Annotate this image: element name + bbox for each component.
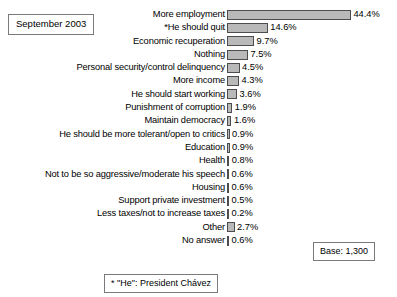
category-label: No answer <box>0 236 227 245</box>
bar <box>227 209 229 219</box>
value-label: 2.7% <box>237 223 258 232</box>
bar <box>227 63 240 73</box>
value-label: 0.6% <box>232 183 253 192</box>
chart-row: Support private investment0.5% <box>0 194 397 207</box>
bar-track: 0.2% <box>227 207 397 220</box>
category-label: Education <box>0 143 227 152</box>
value-label: 1.6% <box>234 116 255 125</box>
category-label: Maintain democracy <box>0 116 227 125</box>
category-label: Punishment of corruption <box>0 103 227 112</box>
value-label: 0.2% <box>232 209 253 218</box>
value-label: 9.7% <box>257 37 278 46</box>
value-label: 44.4% <box>353 10 379 19</box>
bar <box>227 36 254 46</box>
category-label: Support private investment <box>0 196 227 205</box>
bar <box>227 236 229 246</box>
bar-track: 2.7% <box>227 221 397 234</box>
chart-row: Less taxes/not to increase taxes0.2% <box>0 207 397 220</box>
chart-row: He should start working3.6% <box>0 88 397 101</box>
category-label: He should start working <box>0 90 227 99</box>
chart-row: Housing0.6% <box>0 181 397 194</box>
chart-row: Economic recuperation9.7% <box>0 35 397 48</box>
category-label: Less taxes/not to increase taxes <box>0 209 227 218</box>
bar-chart-plot-area: More employment44.4%*He should quit14.6%… <box>0 8 397 247</box>
chart-container: September 2003 More employment44.4%*He s… <box>0 0 397 297</box>
bar-track: 9.7% <box>227 35 397 48</box>
chart-row: Education0.9% <box>0 141 397 154</box>
bar-track: 1.9% <box>227 101 397 114</box>
bar <box>227 103 232 113</box>
category-label: More income <box>0 76 227 85</box>
chart-row: Health0.8% <box>0 154 397 167</box>
chart-row: More employment44.4% <box>0 8 397 21</box>
category-label: Economic recuperation <box>0 37 227 46</box>
chart-row: *He should quit14.6% <box>0 21 397 34</box>
bar <box>227 169 229 179</box>
base-label: Base: 1,300 <box>320 246 368 256</box>
bar-track: 1.6% <box>227 114 397 127</box>
bar <box>227 143 230 153</box>
bar-track: 0.6% <box>227 181 397 194</box>
chart-row: Other2.7% <box>0 221 397 234</box>
category-label: Other <box>0 223 227 232</box>
value-label: 0.5% <box>232 196 253 205</box>
bar <box>227 222 235 232</box>
category-label: *He should quit <box>0 23 227 32</box>
value-label: 4.5% <box>242 63 263 72</box>
bar <box>227 116 231 126</box>
category-label: He should be more tolerant/open to criti… <box>0 130 227 139</box>
footnote-annotation-box: * "He": President Chávez <box>104 274 218 293</box>
bar <box>227 89 237 99</box>
bar-track: 14.6% <box>227 21 397 34</box>
bar <box>227 76 239 86</box>
category-label: More employment <box>0 10 227 19</box>
footnote-label: * "He": President Chávez <box>111 278 211 288</box>
category-label: Nothing <box>0 50 227 59</box>
chart-row: Maintain democracy1.6% <box>0 114 397 127</box>
bar <box>227 196 229 206</box>
value-label: 1.9% <box>235 103 256 112</box>
bar <box>227 10 351 20</box>
value-label: 0.9% <box>232 143 253 152</box>
bar <box>227 23 268 33</box>
base-annotation-box: Base: 1,300 <box>313 242 375 261</box>
bar-track: 4.5% <box>227 61 397 74</box>
value-label: 3.6% <box>240 90 261 99</box>
value-label: 0.8% <box>232 156 253 165</box>
category-label: Health <box>0 156 227 165</box>
value-label: 0.6% <box>232 236 253 245</box>
bar-track: 3.6% <box>227 88 397 101</box>
bar <box>227 156 229 166</box>
bar <box>227 129 230 139</box>
value-label: 0.6% <box>232 170 253 179</box>
chart-row: Nothing7.5% <box>0 48 397 61</box>
bar-track: 7.5% <box>227 48 397 61</box>
category-label: Not to be so aggressive/moderate his spe… <box>0 170 227 179</box>
chart-row: Punishment of corruption1.9% <box>0 101 397 114</box>
value-label: 7.5% <box>250 50 271 59</box>
bar-track: 4.3% <box>227 74 397 87</box>
category-label: Housing <box>0 183 227 192</box>
bar-track: 0.6% <box>227 168 397 181</box>
bar-track: 0.9% <box>227 128 397 141</box>
value-label: 4.3% <box>241 76 262 85</box>
category-label: Personal security/control delinquency <box>0 63 227 72</box>
bar-track: 44.4% <box>227 8 397 21</box>
bar <box>227 183 229 193</box>
chart-row: More income4.3% <box>0 74 397 87</box>
chart-row: He should be more tolerant/open to criti… <box>0 128 397 141</box>
bar-track: 0.9% <box>227 141 397 154</box>
chart-row: Personal security/control delinquency4.5… <box>0 61 397 74</box>
bar <box>227 50 248 60</box>
value-label: 0.9% <box>232 130 253 139</box>
value-label: 14.6% <box>270 23 296 32</box>
chart-row: Not to be so aggressive/moderate his spe… <box>0 168 397 181</box>
bar-track: 0.5% <box>227 194 397 207</box>
bar-track: 0.8% <box>227 154 397 167</box>
